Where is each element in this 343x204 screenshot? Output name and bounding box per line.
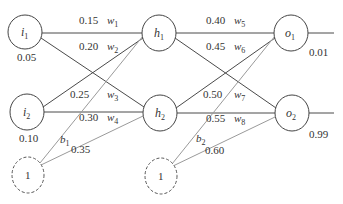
node-i1: i1 — [8, 15, 42, 49]
node-h1: h1 — [142, 15, 176, 51]
bias-node-1-label: 1 — [25, 169, 31, 181]
weight-w2-var: w2 — [107, 40, 118, 55]
node-i1-value: 0.05 — [17, 51, 37, 63]
bias-b1-value: 0.35 — [71, 143, 91, 155]
bias-node-2-label: 1 — [158, 170, 164, 182]
weight-w8-value: 0.55 — [206, 112, 226, 124]
weight-w3-var: w3 — [107, 88, 118, 103]
weight-w1-var: w1 — [107, 14, 118, 29]
weight-w5-value: 0.40 — [206, 14, 226, 26]
weight-w6-value: 0.45 — [206, 40, 226, 52]
weight-w5-var: w5 — [234, 14, 245, 29]
node-o2: o2 — [275, 95, 309, 131]
edge-b1-h2 — [41, 116, 143, 165]
weight-w7-value: 0.50 — [203, 88, 223, 100]
weight-w1-value: 0.15 — [79, 14, 99, 26]
node-o2-value: 0.99 — [309, 128, 329, 140]
node-o1-value: 0.01 — [309, 46, 328, 58]
edge-b2-o2 — [173, 117, 275, 166]
node-i2-value: 0.10 — [19, 132, 39, 144]
bias-node-1: 1 — [12, 157, 44, 193]
node-h2: h2 — [143, 95, 177, 131]
bias-b2-value: 0.60 — [205, 144, 225, 156]
weight-w4-var: w4 — [107, 111, 118, 126]
weight-w8-var: w8 — [234, 112, 245, 127]
bias-node-2: 1 — [145, 158, 177, 194]
weight-w2-value: 0.20 — [79, 40, 99, 52]
neural-network-diagram: i1 0.05 i2 0.10 1 h1 h2 1 o1 0.01 o2 0.9… — [0, 0, 343, 204]
node-i2: i2 — [10, 94, 44, 130]
weight-w4-value: 0.30 — [79, 111, 99, 123]
weight-w3-value: 0.25 — [70, 88, 90, 100]
bias-b1-var: b1 — [60, 133, 70, 148]
weight-w6-var: w6 — [234, 40, 245, 55]
edge-b1-h1 — [40, 36, 143, 163]
node-o1: o1 — [274, 15, 308, 51]
weight-w7-var: w7 — [234, 88, 245, 103]
